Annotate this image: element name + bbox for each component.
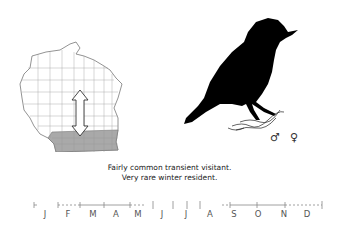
month-mar: M xyxy=(89,209,96,219)
caption-line-1: Fairly common transient visitant. xyxy=(0,163,339,173)
female-symbol: ♀ xyxy=(290,131,298,144)
month-sep: S xyxy=(231,209,236,219)
month-dec: D xyxy=(304,209,311,219)
shaded-range xyxy=(48,130,118,152)
month-may: M xyxy=(134,209,141,219)
month-oct: O xyxy=(255,209,262,219)
month-feb: F xyxy=(66,209,71,219)
month-labels: J F M A M J J A S O N D xyxy=(0,209,339,221)
month-jul: J xyxy=(185,209,188,219)
month-nov: N xyxy=(281,209,287,219)
wisconsin-range-map xyxy=(18,38,123,152)
month-apr: A xyxy=(113,209,119,219)
caption-line-2: Very rare winter resident. xyxy=(0,173,339,183)
male-symbol: ♂ xyxy=(270,131,280,144)
bird-silhouette xyxy=(180,8,305,138)
month-aug: A xyxy=(207,209,213,219)
month-jun: J xyxy=(161,209,164,219)
month-jan: J xyxy=(44,209,47,219)
